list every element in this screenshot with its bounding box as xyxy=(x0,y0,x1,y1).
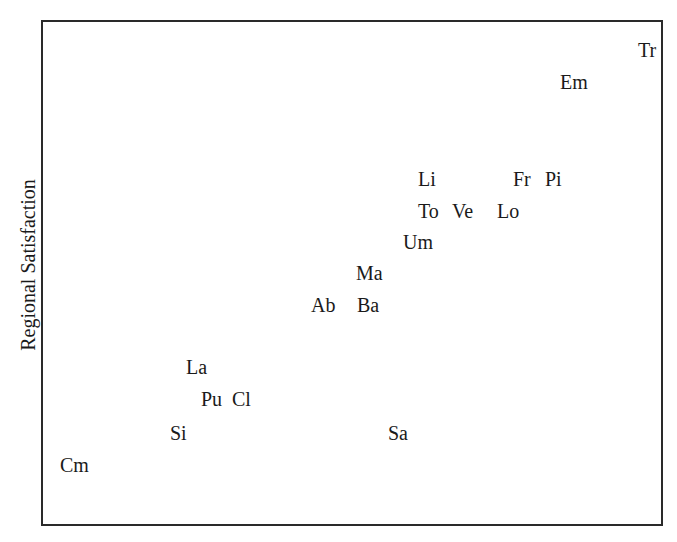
point-label-lo: Lo xyxy=(497,201,519,221)
point-label-ma: Ma xyxy=(356,263,383,283)
point-label-um: Um xyxy=(403,232,433,252)
point-label-tr: Tr xyxy=(638,40,656,60)
point-label-ba: Ba xyxy=(357,295,379,315)
plot-area xyxy=(41,20,663,526)
point-label-cm: Cm xyxy=(60,455,89,475)
point-label-to: To xyxy=(418,201,439,221)
point-label-em: Em xyxy=(560,72,588,92)
point-label-pu: Pu xyxy=(201,389,222,409)
point-label-la: La xyxy=(186,357,207,377)
point-label-ve: Ve xyxy=(452,201,473,221)
point-label-sa: Sa xyxy=(388,423,408,443)
point-label-li: Li xyxy=(418,169,436,189)
y-axis-label: Regional Satisfaction xyxy=(17,179,40,351)
point-label-ab: Ab xyxy=(311,295,335,315)
point-label-si: Si xyxy=(170,423,187,443)
point-label-fr: Fr xyxy=(513,169,531,189)
point-label-cl: Cl xyxy=(232,389,251,409)
point-label-pi: Pi xyxy=(545,169,562,189)
